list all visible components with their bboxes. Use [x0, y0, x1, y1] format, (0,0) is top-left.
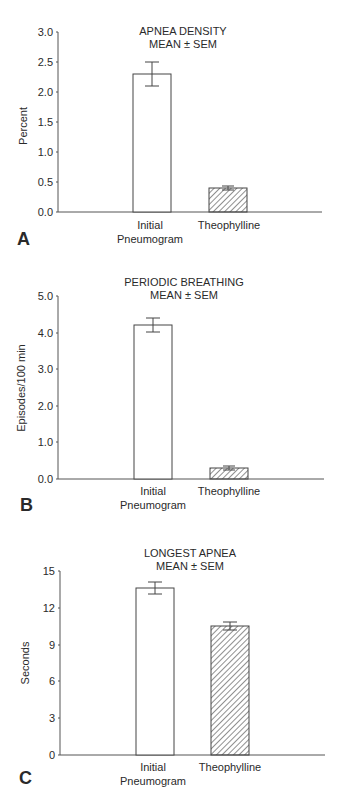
chart-title-line2: MEAN ± SEM — [156, 560, 224, 572]
y-ticks: 0.0 0.5 1.0 1.5 2.0 2.5 3.0 — [38, 26, 58, 218]
svg-text:4.0: 4.0 — [38, 327, 53, 339]
panel-b: PERIODIC BREATHING MEAN ± SEM Episodes/1… — [0, 265, 344, 535]
x-label-initial-line1: Initial — [137, 219, 163, 231]
svg-text:2.5: 2.5 — [38, 56, 53, 68]
svg-text:9: 9 — [49, 639, 55, 651]
x-label-initial-line2: Pneumogram — [117, 233, 183, 245]
chart-title-line1: LONGEST APNEA — [144, 547, 237, 559]
chart-title-line1: APNEA DENSITY — [139, 25, 227, 37]
y-ticks: 0.0 1.0 2.0 3.0 4.0 5.0 — [38, 290, 58, 485]
svg-text:5.0: 5.0 — [38, 290, 53, 302]
bar-theophylline — [209, 188, 247, 212]
svg-text:2.0: 2.0 — [38, 400, 53, 412]
y-axis-label: Percent — [17, 107, 29, 145]
panel-letter: A — [17, 229, 30, 249]
chart-title-line2: MEAN ± SEM — [149, 38, 217, 50]
chart-title-line1: PERIODIC BREATHING — [124, 276, 244, 288]
svg-text:0: 0 — [49, 749, 55, 761]
panel-letter: B — [20, 495, 33, 515]
x-label-theophylline: Theophylline — [198, 485, 260, 497]
x-label-initial-line2: Pneumogram — [120, 499, 186, 511]
svg-text:3: 3 — [49, 712, 55, 724]
svg-text:0.0: 0.0 — [38, 473, 53, 485]
chart-a: APNEA DENSITY MEAN ± SEM Percent 0.0 0.5… — [0, 0, 344, 265]
chart-title-line2: MEAN ± SEM — [150, 289, 218, 301]
panel-letter: C — [19, 768, 32, 788]
x-label-theophylline: Theophylline — [198, 219, 260, 231]
svg-text:0.0: 0.0 — [38, 206, 53, 218]
svg-text:0.5: 0.5 — [38, 176, 53, 188]
panel-a: APNEA DENSITY MEAN ± SEM Percent 0.0 0.5… — [0, 0, 344, 265]
svg-text:6: 6 — [49, 675, 55, 687]
svg-text:3.0: 3.0 — [38, 26, 53, 38]
bar-initial-pneumogram — [133, 74, 171, 212]
y-ticks: 0 3 6 9 12 15 — [43, 565, 60, 761]
chart-b: PERIODIC BREATHING MEAN ± SEM Episodes/1… — [0, 265, 344, 535]
bar-initial-pneumogram — [136, 588, 174, 755]
y-axis-label: Episodes/100 min — [15, 344, 27, 431]
svg-text:3.0: 3.0 — [38, 363, 53, 375]
bar-initial-pneumogram — [134, 325, 172, 479]
panel-c: LONGEST APNEA MEAN ± SEM Seconds 0 3 6 9… — [0, 535, 344, 796]
x-label-initial-line2: Pneumogram — [120, 775, 186, 787]
svg-text:1.0: 1.0 — [38, 436, 53, 448]
y-axis-label: Seconds — [19, 641, 31, 684]
bar-theophylline — [211, 626, 249, 755]
x-label-theophylline: Theophylline — [199, 761, 261, 773]
x-label-initial-line1: Initial — [140, 485, 166, 497]
x-label-initial-line1: Initial — [140, 761, 166, 773]
svg-text:2.0: 2.0 — [38, 86, 53, 98]
svg-text:15: 15 — [43, 565, 55, 577]
svg-text:1.0: 1.0 — [38, 146, 53, 158]
svg-text:1.5: 1.5 — [38, 116, 53, 128]
chart-c: LONGEST APNEA MEAN ± SEM Seconds 0 3 6 9… — [0, 535, 344, 796]
svg-text:12: 12 — [43, 602, 55, 614]
